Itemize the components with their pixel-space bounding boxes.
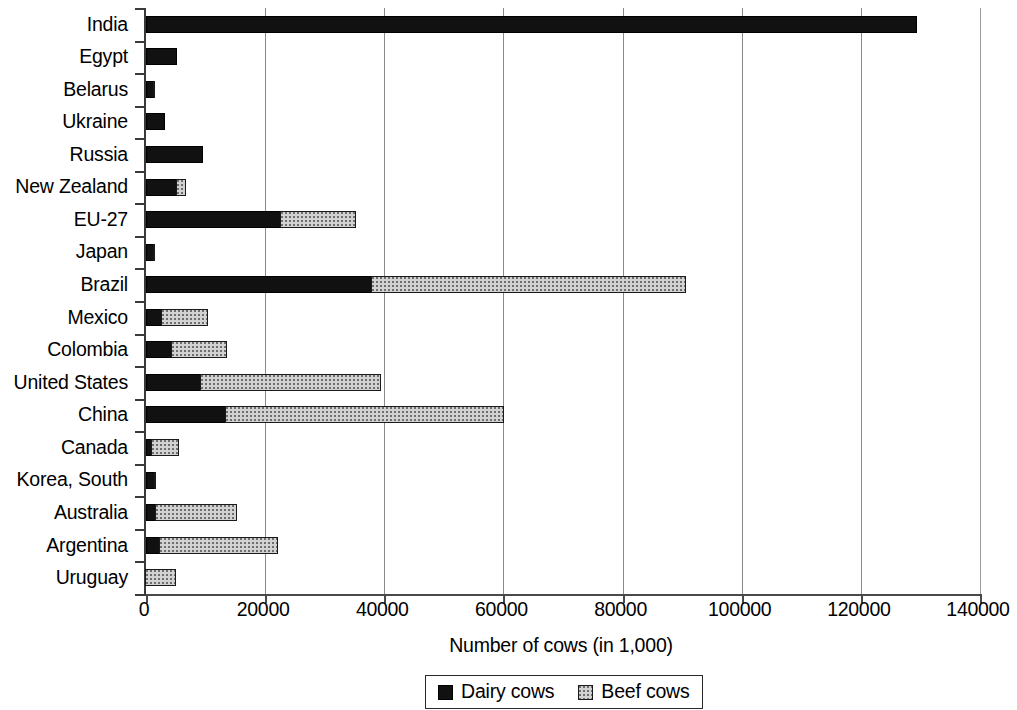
bar-row	[146, 374, 980, 391]
y-axis-label: Australia	[0, 496, 136, 529]
y-axis-tick	[135, 431, 146, 433]
y-axis-tick	[135, 171, 146, 173]
bar-segment-dairy	[146, 146, 203, 163]
x-axis-title: Number of cows (in 1,000)	[144, 634, 978, 657]
beef-swatch	[578, 685, 593, 700]
bar-segment-beef	[371, 276, 686, 293]
y-axis-tick	[135, 8, 146, 10]
bar-segment-beef	[153, 81, 155, 98]
y-axis-tick	[135, 138, 146, 140]
y-axis-label: Russia	[0, 138, 136, 171]
x-axis-tick-label: 20000	[237, 600, 290, 620]
bar-segment-dairy	[146, 276, 372, 293]
bar-row	[146, 81, 980, 98]
bar-segment-beef	[200, 374, 381, 391]
bar-segment-beef	[155, 504, 237, 521]
bar-row	[146, 309, 980, 326]
bar-row	[146, 439, 980, 456]
y-axis-tick	[135, 41, 146, 43]
x-axis-tick-label: 80000	[594, 600, 647, 620]
y-axis-tick	[135, 464, 146, 466]
bar-segment-dairy	[146, 406, 226, 423]
bar-row	[146, 244, 980, 261]
bar-segment-dairy	[146, 48, 177, 65]
bar-segment-beef	[280, 211, 356, 228]
bar-segment-beef	[171, 341, 226, 358]
chart-legend: Dairy cowsBeef cows	[425, 675, 703, 709]
bar-segment-dairy	[146, 113, 165, 130]
x-axis-tick-label: 100000	[708, 600, 771, 620]
y-axis-label: Brazil	[0, 269, 136, 302]
bar-row	[146, 569, 980, 586]
bar-segment-beef	[154, 472, 156, 489]
y-axis-tick	[135, 334, 146, 336]
legend-label: Dairy cows	[461, 682, 554, 702]
dairy-swatch	[438, 685, 453, 700]
bars-group	[146, 8, 980, 594]
bar-segment-beef	[161, 309, 207, 326]
y-axis-tick	[135, 366, 146, 368]
y-axis-tick	[135, 236, 146, 238]
bar-segment-dairy	[146, 179, 177, 196]
y-axis-tick	[135, 268, 146, 270]
bar-row	[146, 16, 980, 33]
y-axis-label: EU-27	[0, 203, 136, 236]
y-axis-label: Mexico	[0, 301, 136, 334]
bar-segment-beef	[153, 244, 155, 261]
y-axis-tick	[135, 73, 146, 75]
y-axis-tick	[135, 203, 146, 205]
bar-segment-dairy	[146, 341, 172, 358]
plot-area	[144, 8, 980, 596]
x-axis-tick-label: 140000	[946, 600, 1009, 620]
bar-segment-beef	[151, 439, 179, 456]
bar-row	[146, 341, 980, 358]
bar-segment-dairy	[146, 374, 201, 391]
y-axis-tick	[135, 399, 146, 401]
bar-row	[146, 179, 980, 196]
y-axis-category-labels: IndiaEgyptBelarusUkraineRussiaNew Zealan…	[0, 8, 136, 594]
bar-segment-beef	[176, 179, 186, 196]
y-axis-tick	[135, 594, 146, 596]
bar-row	[146, 211, 980, 228]
y-axis-tick	[135, 301, 146, 303]
bar-row	[146, 537, 980, 554]
bar-segment-dairy	[146, 211, 281, 228]
y-axis-label: New Zealand	[0, 171, 136, 204]
y-axis-label: United States	[0, 366, 136, 399]
legend-item: Beef cows	[578, 682, 689, 702]
legend-label: Beef cows	[601, 682, 689, 702]
y-axis-label: Argentina	[0, 529, 136, 562]
x-axis-tick-label: 40000	[356, 600, 409, 620]
y-axis-label: Korea, South	[0, 464, 136, 497]
bar-segment-dairy	[146, 309, 162, 326]
y-axis-tick	[135, 106, 146, 108]
y-axis-label: Uruguay	[0, 562, 136, 595]
x-axis-tick-label: 60000	[475, 600, 528, 620]
x-axis-tick-label: 120000	[827, 600, 890, 620]
y-axis-tick	[135, 529, 146, 531]
y-axis-label: China	[0, 399, 136, 432]
y-axis-label: Japan	[0, 236, 136, 269]
y-axis-label: Egypt	[0, 41, 136, 74]
bar-row	[146, 504, 980, 521]
bar-row	[146, 276, 980, 293]
bar-row	[146, 146, 980, 163]
bar-row	[146, 406, 980, 423]
y-axis-label: Ukraine	[0, 106, 136, 139]
bar-segment-beef	[225, 406, 504, 423]
cows-bar-chart: IndiaEgyptBelarusUkraineRussiaNew Zealan…	[0, 0, 1017, 710]
bar-row	[146, 472, 980, 489]
bar-row	[146, 48, 980, 65]
gridline	[980, 8, 981, 594]
y-axis-tick	[135, 496, 146, 498]
bar-segment-dairy	[146, 16, 917, 33]
y-axis-label: Colombia	[0, 334, 136, 367]
y-axis-label: Canada	[0, 431, 136, 464]
x-axis-tick-labels: 020000400006000080000100000120000140000	[144, 600, 978, 626]
bar-segment-beef	[145, 569, 176, 586]
bar-row	[146, 113, 980, 130]
legend-item: Dairy cows	[438, 682, 554, 702]
y-axis-label: Belarus	[0, 73, 136, 106]
x-axis-tick-label: 0	[139, 600, 150, 620]
bar-segment-beef	[159, 537, 279, 554]
